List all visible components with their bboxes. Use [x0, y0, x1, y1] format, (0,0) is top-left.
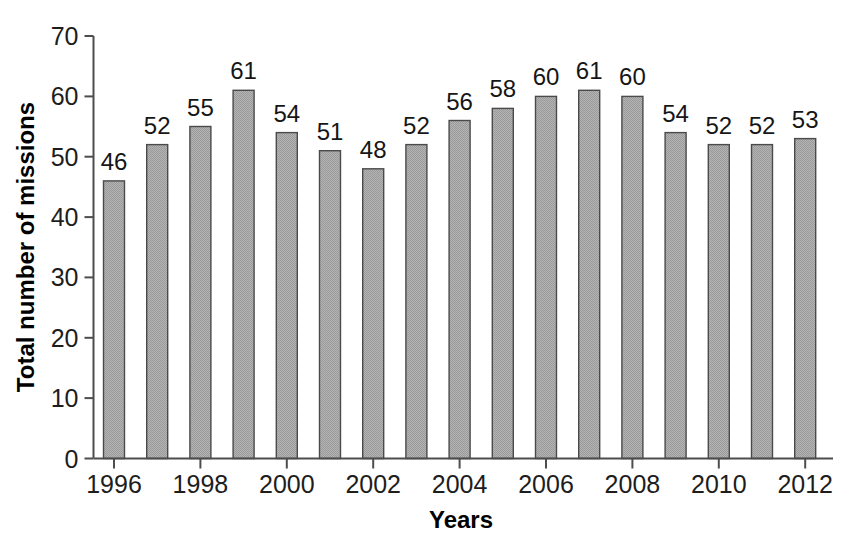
y-tick-label: 0 [65, 445, 79, 473]
bar [795, 139, 816, 459]
bar [406, 145, 427, 459]
bar [190, 127, 211, 459]
bar-value-label: 61 [230, 57, 257, 84]
x-tick-label: 1996 [86, 470, 142, 498]
y-tick-label: 70 [51, 22, 79, 50]
bar-value-label: 54 [273, 100, 300, 127]
bar-value-label: 54 [662, 100, 689, 127]
x-tick-label: 2010 [691, 470, 747, 498]
bar [536, 96, 557, 458]
y-tick-label: 50 [51, 143, 79, 171]
y-tick-label: 40 [51, 203, 79, 231]
bar [752, 145, 773, 459]
x-tick-label: 2000 [259, 470, 315, 498]
bar [665, 133, 686, 459]
bar [449, 121, 470, 459]
bar [492, 108, 513, 458]
bar-value-label: 56 [446, 88, 473, 115]
y-axis-title: Total number of missions [12, 102, 39, 392]
bar-value-label: 61 [576, 57, 603, 84]
bar-value-label: 52 [749, 112, 776, 139]
bar-value-label: 60 [533, 63, 560, 90]
bar [233, 90, 254, 458]
x-tick-label: 2002 [345, 470, 401, 498]
bar [579, 90, 600, 458]
y-tick-label: 30 [51, 263, 79, 291]
x-tick-label: 2008 [605, 470, 661, 498]
bar [708, 145, 729, 459]
bar-value-label: 52 [144, 112, 171, 139]
bar-value-label: 46 [101, 148, 128, 175]
y-tick-label: 60 [51, 82, 79, 110]
bar [320, 151, 341, 459]
bar-value-label: 48 [360, 136, 387, 163]
y-tick-label: 10 [51, 384, 79, 412]
bars-group [104, 90, 816, 458]
bar [104, 181, 125, 459]
y-tick-label: 20 [51, 324, 79, 352]
bar-value-label: 55 [187, 94, 214, 121]
x-tick-label: 1998 [173, 470, 229, 498]
x-tick-label: 2004 [432, 470, 488, 498]
x-tick-label: 2012 [777, 470, 833, 498]
bar-value-label: 58 [489, 75, 516, 102]
bar-value-label: 60 [619, 63, 646, 90]
bar-value-label: 52 [403, 112, 430, 139]
x-tick-label: 2006 [518, 470, 574, 498]
bar-value-label: 52 [705, 112, 732, 139]
chart-canvas: 4652556154514852565860616054525253 01020… [0, 0, 856, 549]
bar-value-label: 53 [792, 106, 819, 133]
bar-chart-figure: 4652556154514852565860616054525253 01020… [0, 0, 856, 549]
bar [276, 133, 297, 459]
bar [363, 169, 384, 459]
x-axis-title: Years [429, 506, 493, 533]
bar [622, 96, 643, 458]
bar-value-label: 51 [317, 118, 344, 145]
bar [147, 145, 168, 459]
